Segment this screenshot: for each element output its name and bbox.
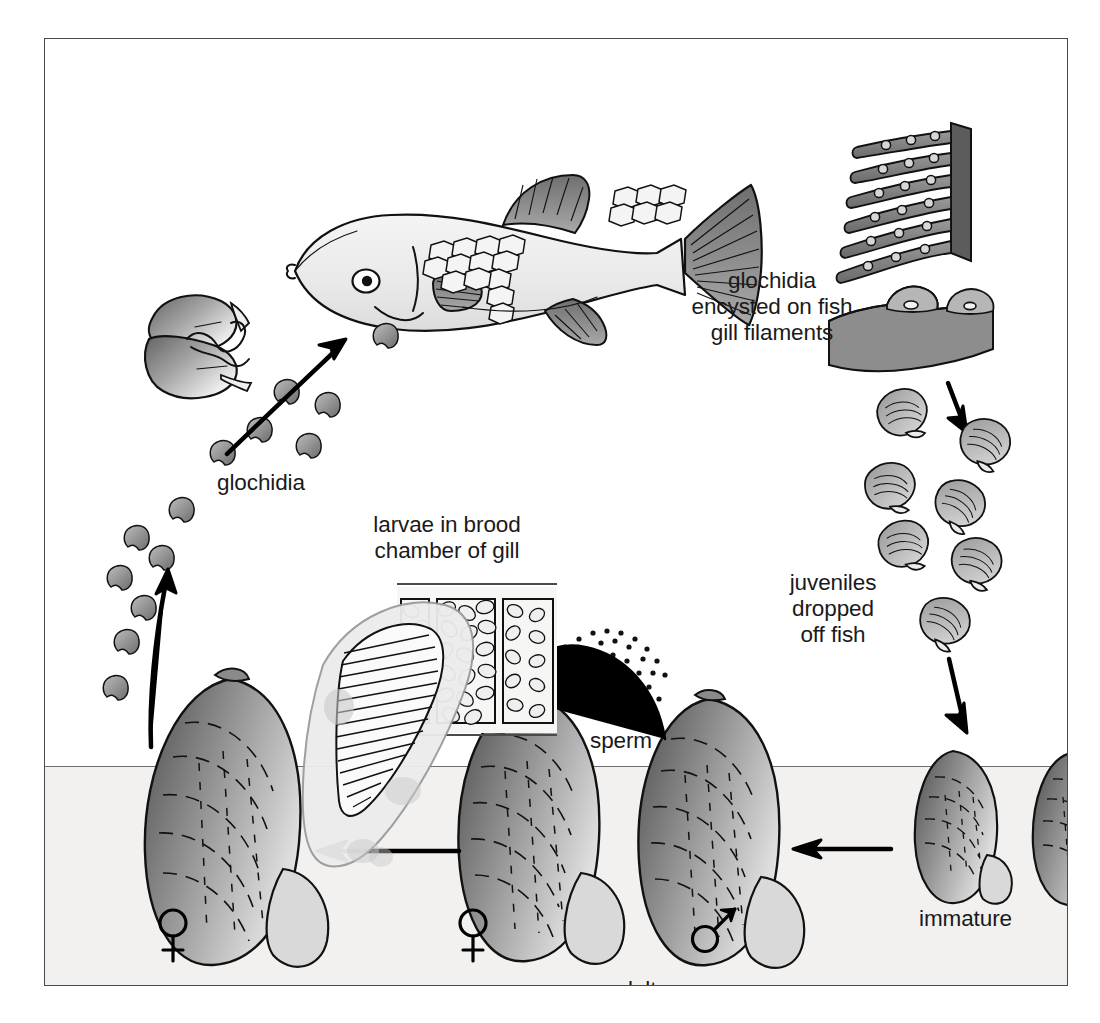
immature-mussels <box>915 751 1068 906</box>
label-glochidia: glochidia <box>217 470 305 496</box>
label-glochidia-encysted: glochidia encysted on fish gill filament… <box>663 268 881 346</box>
arrow-female-to-glochidia <box>151 569 176 747</box>
arrow-gill-to-juveniles <box>948 383 967 433</box>
figure-page: glochidia glochidia encysted on fish gil… <box>0 0 1100 1023</box>
label-juveniles-dropped: juveniles dropped off fish <box>763 570 903 648</box>
label-larvae-brood-chamber: larvae in brood chamber of gill <box>333 512 561 564</box>
figure-frame: glochidia glochidia encysted on fish gil… <box>44 38 1068 986</box>
adult-mussel-female-left <box>145 669 328 967</box>
label-adults: adults <box>608 977 667 986</box>
fish-scale-patch-rear <box>609 185 686 226</box>
gill-filaments-illustration <box>837 123 972 283</box>
arrow-immature-to-adults <box>793 840 891 858</box>
open-mussel-releasing-glochidia <box>145 295 251 398</box>
label-sperm: sperm <box>590 728 652 754</box>
label-immature: immature <box>919 906 1012 932</box>
arrow-juveniles-to-immature <box>946 659 967 733</box>
